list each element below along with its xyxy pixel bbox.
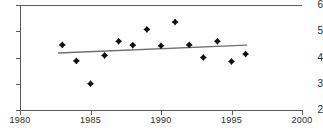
trend-line-segment xyxy=(58,45,247,53)
scatter-chart: 23456 19801985199019952000 xyxy=(0,0,323,133)
trend-line xyxy=(0,0,323,133)
